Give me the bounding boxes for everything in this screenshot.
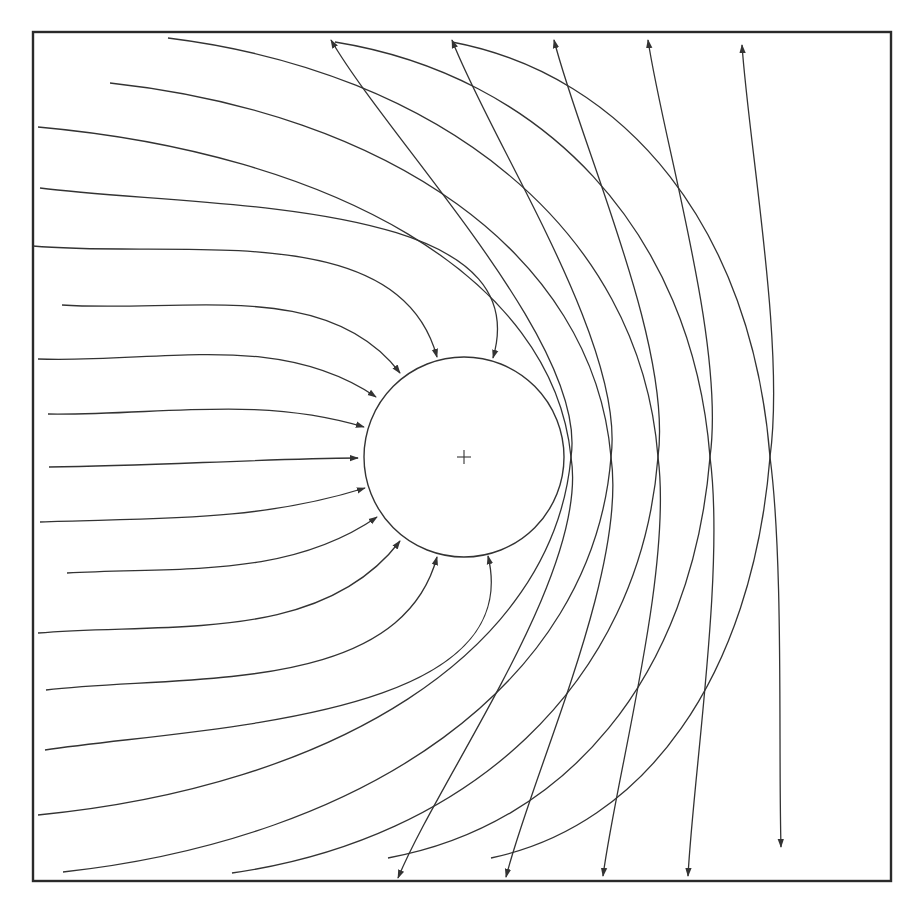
impacting-trajectory-arrow — [49, 458, 358, 467]
impacting-trajectory-arrow — [40, 188, 498, 358]
impacting-trajectory-arrow — [38, 541, 400, 633]
impacting-trajectory-arrow — [40, 488, 365, 522]
impacting-trajectory-arrow — [48, 409, 364, 427]
trajectory-diagram — [0, 0, 920, 904]
impacting-trajectory-arrow — [67, 517, 377, 573]
impacting-trajectory-arrow — [33, 246, 437, 357]
impacting-trajectory-arrow — [45, 556, 491, 750]
impacting-trajectory-arrow — [46, 557, 437, 690]
impacting-trajectory-arrow — [38, 355, 376, 397]
impacting-trajectory-arrow — [62, 305, 400, 373]
